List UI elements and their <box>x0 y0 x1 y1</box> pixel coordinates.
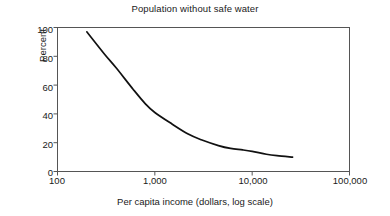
data-series-line <box>87 32 293 157</box>
x-axis-tick-marks <box>58 172 350 176</box>
y-axis-tick-marks <box>54 28 58 172</box>
chart-plot-svg <box>0 0 390 216</box>
chart-figure: Population without safe water Percent 10… <box>0 0 390 216</box>
